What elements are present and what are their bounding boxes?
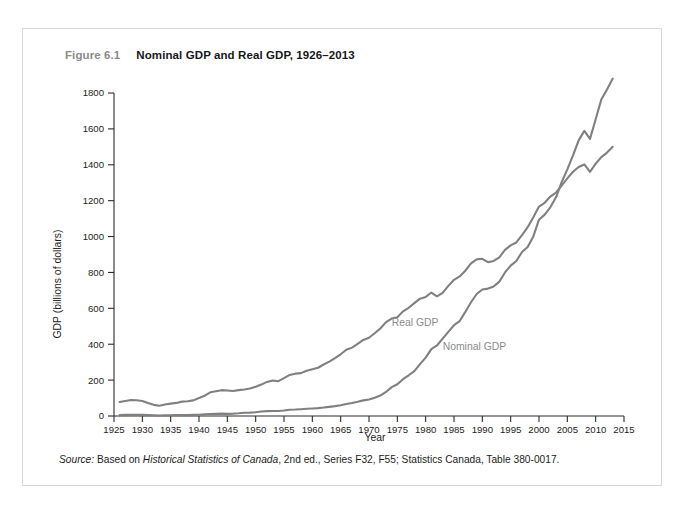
x-tick-label: 1980 xyxy=(415,424,436,435)
x-tick-label: 2010 xyxy=(585,424,606,435)
y-tick-label: 1400 xyxy=(83,159,104,170)
x-tick-label: 1995 xyxy=(500,424,521,435)
chart-series xyxy=(120,79,613,416)
gdp-line-chart: 020040060080010001200140016001800 192519… xyxy=(23,29,663,487)
x-tick-label: 1975 xyxy=(387,424,408,435)
y-tick-label: 0 xyxy=(99,410,104,421)
x-axis-ticks xyxy=(114,416,624,422)
real-gdp-label: Real GDP xyxy=(392,317,439,328)
x-tick-label: 1925 xyxy=(103,424,124,435)
source-text-a: Based on xyxy=(94,454,143,465)
x-tick-label: 1945 xyxy=(217,424,238,435)
y-tick-label: 200 xyxy=(88,375,104,386)
y-tick-label: 1600 xyxy=(83,123,104,134)
x-tick-label: 1960 xyxy=(302,424,323,435)
source-text-b: , 2nd ed., Series F32, F55; Statistics C… xyxy=(278,454,559,465)
x-tick-label: 2015 xyxy=(613,424,634,435)
y-axis-tick-labels: 020040060080010001200140016001800 xyxy=(83,87,104,421)
y-axis-ticks xyxy=(108,93,114,416)
y-tick-label: 1800 xyxy=(83,87,104,98)
x-tick-label: 2000 xyxy=(528,424,549,435)
nominal-gdp-line xyxy=(120,79,613,416)
y-tick-label: 1000 xyxy=(83,231,104,242)
y-tick-label: 800 xyxy=(88,267,104,278)
x-tick-label: 1940 xyxy=(188,424,209,435)
figure-card: Figure 6.1Nominal GDP and Real GDP, 1926… xyxy=(22,28,662,486)
x-tick-label: 2005 xyxy=(557,424,578,435)
nominal-gdp-label: Nominal GDP xyxy=(443,341,507,352)
x-axis-title: Year xyxy=(365,432,387,443)
chart-axes xyxy=(108,93,624,422)
x-tick-label: 1965 xyxy=(330,424,351,435)
x-tick-label: 1950 xyxy=(245,424,266,435)
source-prefix: Source: xyxy=(59,454,94,465)
y-tick-label: 400 xyxy=(88,339,104,350)
x-tick-label: 1985 xyxy=(443,424,464,435)
y-axis-title: GDP (billions of dollars) xyxy=(52,230,63,339)
source-italic-title: Historical Statistics of Canada xyxy=(143,454,278,465)
x-tick-label: 1930 xyxy=(132,424,153,435)
x-tick-label: 1935 xyxy=(160,424,181,435)
y-tick-label: 600 xyxy=(88,303,104,314)
y-tick-label: 1200 xyxy=(83,195,104,206)
x-tick-label: 1955 xyxy=(273,424,294,435)
series-annotations: Real GDP Nominal GDP xyxy=(392,317,507,351)
x-tick-label: 1990 xyxy=(472,424,493,435)
real-gdp-line xyxy=(120,147,613,406)
source-note: Source: Based on Historical Statistics o… xyxy=(59,454,559,465)
